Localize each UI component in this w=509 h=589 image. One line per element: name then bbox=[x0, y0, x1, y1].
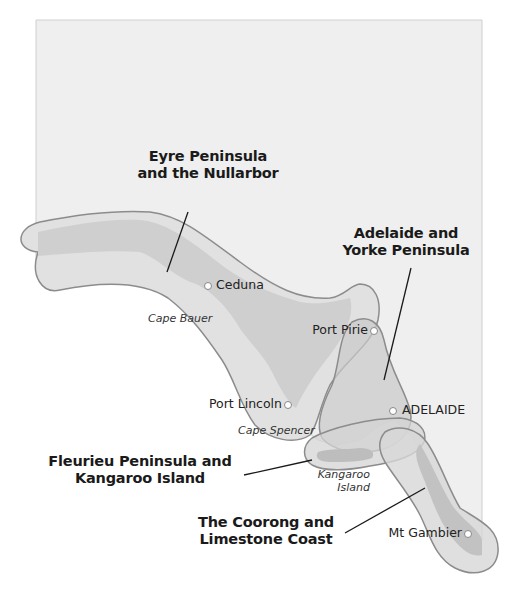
town-label-adelaide: ADELAIDE bbox=[402, 403, 465, 417]
south-australia-map bbox=[0, 0, 509, 589]
town-label-ceduna: Ceduna bbox=[216, 278, 264, 292]
town-marker-mt-gambier[interactable] bbox=[465, 531, 472, 538]
town-label-port-lincoln: Port Lincoln bbox=[188, 397, 282, 411]
town-marker-adelaide[interactable] bbox=[390, 408, 397, 415]
feature-label-cape-bauer: Cape Bauer bbox=[148, 313, 212, 326]
town-label-port-pirie: Port Pirie bbox=[296, 323, 368, 337]
region-label-fleurieu-kangaroo[interactable]: Fleurieu Peninsula and Kangaroo Island bbox=[30, 453, 250, 486]
town-marker-ceduna[interactable] bbox=[205, 283, 212, 290]
town-marker-port-lincoln[interactable] bbox=[285, 402, 292, 409]
town-label-mt-gambier: Mt Gambier bbox=[368, 526, 462, 540]
region-label-coorong-limestone[interactable]: The Coorong and Limestone Coast bbox=[186, 514, 346, 547]
town-marker-port-pirie[interactable] bbox=[371, 328, 378, 335]
region-label-adelaide-yorke[interactable]: Adelaide and Yorke Peninsula bbox=[336, 225, 476, 258]
region-label-eyre[interactable]: Eyre Peninsula and the Nullarbor bbox=[116, 148, 300, 181]
feature-label-kangaroo-island: Kangaroo Island bbox=[290, 469, 370, 494]
feature-label-cape-spencer: Cape Spencer bbox=[238, 425, 315, 438]
